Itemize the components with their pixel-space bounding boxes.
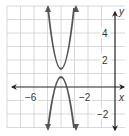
y-tick-2: 2: [102, 55, 108, 66]
x-tick-neg2: −2: [79, 92, 91, 103]
y-axis-label: y: [118, 6, 125, 17]
coordinate-plane: −6 −2 x 4 2 −2 y: [0, 0, 129, 136]
x-tick-neg6: −6: [25, 92, 37, 103]
y-tick-4: 4: [102, 28, 108, 39]
y-tick-neg2: −2: [97, 109, 109, 120]
x-axis-label: x: [118, 92, 125, 103]
